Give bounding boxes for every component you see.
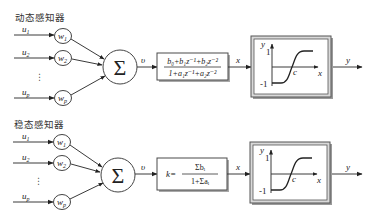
dynamic-perceptron-diagram: 动态感知器 u1 w1 u2 w2 ⋮ up wp Σ — [14, 12, 362, 106]
center-label: c — [293, 67, 297, 77]
input-row-p: up wp — [13, 191, 71, 210]
transfer-output-label: x — [235, 162, 240, 172]
weight-to-sum-arrow — [71, 39, 104, 59]
input-row-2: u2 w2 — [14, 47, 72, 66]
input-row-p: up wp — [14, 87, 72, 106]
steady-state-perceptron-diagram: 稳态感知器 u1 w1 u2 w2 ⋮ up wp Σ υ — [13, 119, 362, 210]
input-label: up — [22, 87, 30, 98]
steady-state-perceptron-title: 稳态感知器 — [14, 119, 64, 130]
transfer-numerator: b₀+b₁z⁻¹+b₂z⁻² — [167, 57, 218, 66]
y-axis-label: y — [259, 145, 264, 155]
y-axis-label: y — [260, 39, 265, 49]
weight-to-sum-arrow — [72, 59, 102, 65]
weight-to-sum-arrow — [71, 164, 100, 172]
transfer-output-label: x — [235, 55, 240, 65]
input-row-2: u2 w2 — [13, 152, 71, 171]
dynamic-perceptron-title: 动态感知器 — [15, 12, 65, 23]
output-label: y — [345, 162, 350, 172]
input-row-1: u1 w1 — [14, 24, 72, 44]
perceptron-diagrams: 动态感知器 u1 w1 u2 w2 ⋮ up wp Σ — [0, 0, 372, 224]
activation-function-block: y 1 -1 x c — [251, 36, 333, 99]
activation-function-block: y 1 -1 x c — [250, 142, 332, 205]
input-label: u2 — [22, 152, 30, 163]
gain-prefix: k= — [166, 169, 176, 179]
sigma-icon: Σ — [112, 163, 125, 188]
input-label: up — [22, 191, 30, 202]
transfer-function-block: b₀+b₁z⁻¹+b₂z⁻² 1+a₁z⁻¹+a₂z⁻² — [157, 53, 230, 82]
input-label: u2 — [22, 47, 30, 58]
upper-value-label: 1 — [266, 47, 271, 57]
lower-value-label: -1 — [259, 186, 267, 196]
output-label: y — [345, 55, 350, 65]
x-axis-label: x — [317, 68, 322, 78]
steady-state-gain-block: k= Σbᵢ 1+Σaᵢ — [157, 158, 229, 192]
ellipsis: ⋮ — [35, 72, 44, 82]
sum-output-label: υ — [141, 55, 145, 65]
weight-to-sum-arrow — [70, 145, 102, 167]
input-label: u1 — [22, 24, 30, 35]
center-label: c — [292, 174, 296, 184]
gain-numerator: Σbᵢ — [195, 163, 206, 172]
transfer-denominator: 1+a₁z⁻¹+a₂z⁻² — [169, 69, 217, 78]
sum-output-label: υ — [141, 162, 145, 172]
input-row-1: u1 w1 — [13, 131, 71, 150]
input-label: u1 — [22, 131, 30, 142]
x-axis-label: x — [316, 175, 321, 185]
upper-value-label: 1 — [265, 153, 270, 163]
ellipsis: ⋮ — [34, 176, 43, 186]
sigma-icon: Σ — [114, 55, 127, 80]
weight-to-sum-arrow — [71, 76, 105, 95]
lower-value-label: -1 — [260, 79, 268, 89]
gain-denominator: 1+Σaᵢ — [191, 177, 210, 186]
weight-to-sum-arrow — [70, 183, 103, 199]
